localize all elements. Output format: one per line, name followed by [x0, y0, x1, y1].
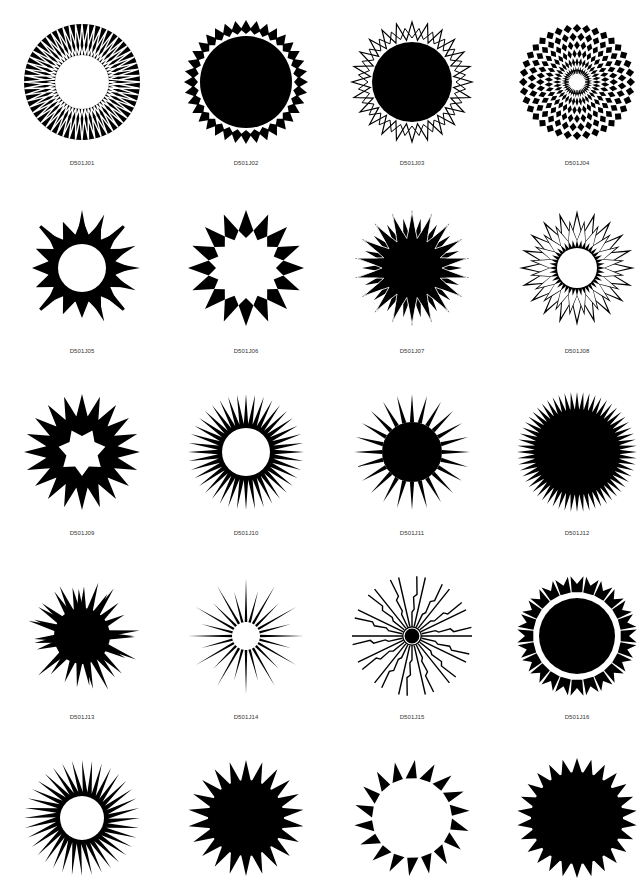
sunburst-disc-fine-spikes-icon [497, 372, 640, 532]
item-code-label: D501J08 [497, 348, 640, 354]
sunburst-solid-star-2-icon [497, 738, 640, 883]
item-code-label: D501J11 [332, 530, 492, 536]
item-code-label: D501J04 [497, 160, 640, 166]
sunburst-disc-detached-teeth-icon [497, 556, 640, 716]
item-code-label: D501J03 [332, 160, 492, 166]
item-code-label: D501J13 [2, 714, 162, 720]
sunburst-ring-triangles-icon [332, 738, 492, 883]
sunburst-lightning-rays-icon [332, 556, 492, 716]
item-code-label: D501J09 [2, 530, 162, 536]
sunburst-sun-spikes-icon [2, 188, 162, 348]
item-code-label: D501J06 [166, 348, 326, 354]
item-code-label: D501J02 [166, 160, 326, 166]
sunburst-disc-thin-spikes-icon [332, 372, 492, 532]
sunburst-ring-spikes-icon [166, 372, 326, 532]
sunburst-star-overlap-icon [332, 188, 492, 348]
sunburst-burst-ring-icon [166, 556, 326, 716]
sunburst-burst-random-icon [2, 556, 162, 716]
item-code-label: D501J01 [2, 160, 162, 166]
item-code-label: D501J14 [166, 714, 326, 720]
sunburst-diamond-ring-icon [166, 188, 326, 348]
item-code-label: D501J07 [332, 348, 492, 354]
sunburst-disc-zigzag-icon [332, 2, 492, 162]
item-code-label: D501J10 [166, 530, 326, 536]
sunburst-ring-zigzag-icon [2, 2, 162, 162]
sunburst-swirl-spikes-icon [2, 738, 162, 883]
sunburst-solid-star-icon [166, 738, 326, 883]
item-code-label: D501J15 [332, 714, 492, 720]
item-code-label: D501J12 [497, 530, 640, 536]
sunburst-scallop-star-icon [2, 372, 162, 532]
sunburst-gear-notch-icon [166, 2, 326, 162]
item-code-label: D501J05 [2, 348, 162, 354]
sunburst-ring-star-outline-icon [497, 188, 640, 348]
item-code-label: D501J16 [497, 714, 640, 720]
sunburst-checker-rays-icon [497, 2, 640, 162]
